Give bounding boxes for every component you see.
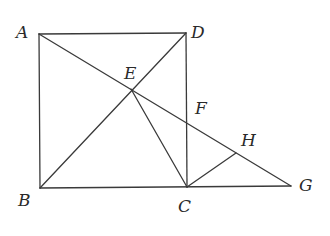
segment-BG [40, 186, 291, 188]
segment-CH [187, 153, 236, 187]
segment-DC [186, 33, 187, 187]
label-G: G [299, 175, 313, 195]
label-A: A [14, 22, 28, 42]
geometry-diagram: A D B C E F H G [0, 0, 330, 236]
segments [39, 33, 291, 188]
label-D: D [190, 22, 205, 42]
segment-EC [131, 89, 187, 187]
segment-AG [39, 34, 291, 186]
segment-AD [39, 33, 186, 34]
segment-AB [39, 34, 40, 188]
label-E: E [123, 63, 137, 83]
label-H: H [240, 130, 257, 150]
label-B: B [17, 190, 31, 210]
segment-BD [40, 33, 186, 188]
label-C: C [178, 196, 191, 216]
label-F: F [194, 98, 208, 118]
